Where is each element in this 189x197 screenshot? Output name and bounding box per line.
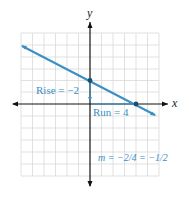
rise-label: Rise = −2 (36, 84, 79, 96)
graph-svg (0, 0, 189, 197)
point-x-intercept (134, 102, 139, 107)
y-axis-label: y (87, 6, 92, 21)
slope-label: m = −2/4 = −1/2 (98, 152, 168, 163)
point-y-intercept (88, 78, 93, 83)
x-axis-label: x (172, 96, 177, 111)
coordinate-plane-figure: y x Rise = −2 Run = 4 m = −2/4 = −1/2 (0, 0, 189, 197)
run-label: Run = 4 (93, 106, 129, 118)
